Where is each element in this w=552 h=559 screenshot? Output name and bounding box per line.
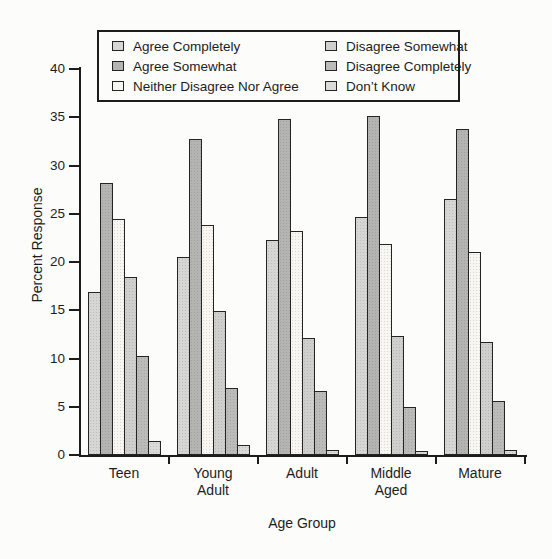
- legend-swatch-icon: [325, 41, 337, 51]
- x-axis-title: Age Group: [242, 515, 362, 531]
- category-label: Mature: [448, 465, 512, 482]
- legend-swatch-icon: [325, 81, 337, 91]
- y-tick: [69, 213, 80, 215]
- x-axis: [79, 455, 527, 457]
- legend-label: Disagree Completely: [346, 59, 471, 74]
- legend-swatch-icon: [112, 61, 124, 71]
- bar: [415, 451, 428, 455]
- bar: [136, 356, 149, 455]
- legend-item: Disagree Completely: [325, 56, 471, 76]
- legend-item: Don’t Know: [325, 76, 471, 96]
- y-tick: [69, 309, 80, 311]
- x-tick: [257, 455, 259, 464]
- category-label: Middle Aged: [359, 465, 423, 499]
- legend-swatch-icon: [325, 61, 337, 71]
- y-tick: [69, 68, 80, 70]
- y-tick: [69, 116, 80, 118]
- y-tick-label: 35: [29, 109, 65, 125]
- legend-item: Disagree Somewhat: [325, 36, 471, 56]
- x-tick: [524, 455, 526, 464]
- bar: [504, 450, 517, 455]
- y-axis-title: Percent Response: [29, 145, 47, 345]
- y-tick: [69, 261, 80, 263]
- legend-label: Agree Somewhat: [133, 59, 237, 74]
- y-tick-label: 5: [29, 399, 65, 415]
- legend-swatch-icon: [112, 41, 124, 51]
- bar: [148, 441, 161, 455]
- y-tick: [69, 358, 80, 360]
- y-tick: [69, 406, 80, 408]
- bar: [403, 407, 416, 455]
- category-label: Teen: [92, 465, 156, 482]
- legend-label: Agree Completely: [133, 39, 240, 54]
- x-tick: [168, 455, 170, 464]
- legend-swatch-icon: [112, 81, 124, 91]
- legend-item: Neither Disagree Nor Agree: [112, 76, 325, 96]
- bar: [326, 450, 339, 455]
- y-tick-label: 40: [29, 61, 65, 77]
- legend-item: Agree Completely: [112, 36, 325, 56]
- chart-legend: Agree CompletelyAgree SomewhatNeither Di…: [97, 30, 460, 102]
- legend-label: Neither Disagree Nor Agree: [133, 79, 299, 94]
- y-tick-label: 10: [29, 351, 65, 367]
- y-tick-label: 0: [29, 447, 65, 463]
- legend-label: Disagree Somewhat: [346, 39, 468, 54]
- bar: [314, 391, 327, 455]
- x-tick: [346, 455, 348, 464]
- bar: [237, 445, 250, 455]
- bar: [492, 401, 505, 455]
- bar-chart-figure: 0510152025303540TeenYoung AdultAdultMidd…: [0, 0, 552, 559]
- category-label: Young Adult: [181, 465, 245, 499]
- legend-label: Don’t Know: [346, 79, 415, 94]
- y-tick: [69, 165, 80, 167]
- y-tick: [69, 454, 80, 456]
- category-label: Adult: [270, 465, 334, 482]
- x-tick: [435, 455, 437, 464]
- legend-item: Agree Somewhat: [112, 56, 325, 76]
